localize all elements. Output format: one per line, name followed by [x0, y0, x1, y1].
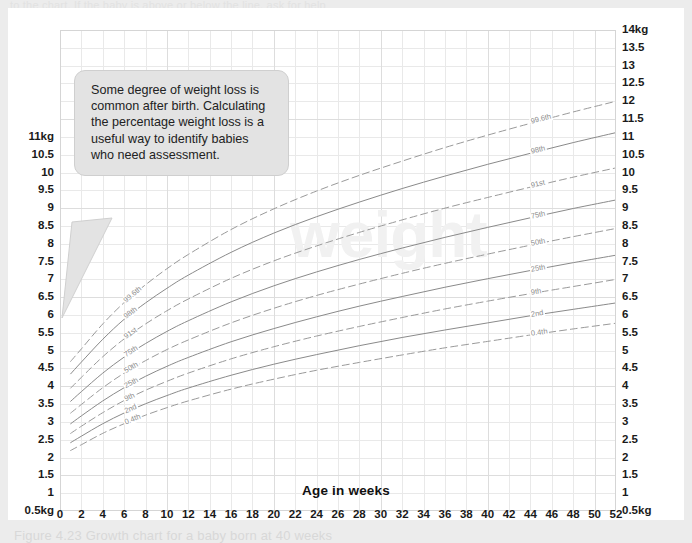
y-tick-left-tick: 4.5	[38, 362, 54, 373]
y-tick-left-tick: 6	[48, 309, 54, 320]
y-tick-right-tick: 2	[622, 452, 628, 463]
y-tick-right-tick: 8	[622, 238, 628, 249]
chart-card: 11kg10.5109.598.587.576.565.554.543.532.…	[8, 8, 684, 520]
y-tick-right-tick: 10.5	[622, 149, 644, 160]
y-tick-left-tick: 5	[48, 345, 54, 356]
y-tick-right-tick: 10	[622, 167, 635, 178]
callout-tail	[60, 160, 190, 320]
y-tick-left-tick: 8.5	[38, 220, 54, 231]
percentile-label-9th: 9th	[530, 287, 544, 297]
y-tick-right-tick: 13	[622, 60, 635, 71]
x-tick: 52	[603, 508, 629, 520]
y-tick-left-tick: 11kg	[28, 131, 54, 142]
y-tick-right-tick: 12.5	[622, 77, 644, 88]
y-tick-left-tick: 9	[48, 202, 54, 213]
y-tick-left-tick: 2	[48, 452, 54, 463]
y-tick-left-tick: 6.5	[38, 291, 54, 302]
y-tick-right-tick: 5	[622, 345, 628, 356]
y-axis-left: 11kg10.5109.598.587.576.565.554.543.532.…	[8, 8, 54, 520]
y-tick-right-tick: 11.5	[622, 113, 644, 124]
y-tick-left-tick: 3	[48, 416, 54, 427]
y-tick-right-tick: 6.5	[622, 291, 638, 302]
y-tick-left-tick: 3.5	[38, 398, 54, 409]
y-tick-right-tick: 12	[622, 95, 635, 106]
y-tick-right-tick: 11	[622, 131, 634, 142]
y-tick-left-tick: 5.5	[38, 327, 54, 338]
chart-page: to the chart. If the baby is above or be…	[0, 0, 692, 543]
figure-caption: Figure 4.23 Growth chart for a baby born…	[0, 527, 692, 543]
x-axis-title: Age in weeks	[8, 483, 684, 498]
y-tick-left-tick: 8	[48, 238, 54, 249]
y-tick-right-tick: 5.5	[622, 327, 638, 338]
y-tick-right-tick: 3	[622, 416, 628, 427]
y-tick-right-tick: 13.5	[622, 42, 644, 53]
y-tick-right-tick: 8.5	[622, 220, 638, 231]
callout-bubble: Some degree of weight loss is common aft…	[74, 70, 289, 176]
callout-text: Some degree of weight loss is common aft…	[91, 82, 274, 163]
y-axis-right: 14kg13.51312.51211.51110.5109.598.587.57…	[622, 8, 684, 520]
y-tick-right-tick: 6	[622, 309, 628, 320]
y-tick-right-tick: 7	[622, 273, 628, 284]
y-tick-right-tick: 7.5	[622, 256, 638, 267]
y-tick-left-tick: 10	[41, 167, 54, 178]
y-tick-right-tick: 2.5	[622, 434, 638, 445]
y-tick-left-tick: 2.5	[38, 434, 54, 445]
y-tick-right-tick: 4.5	[622, 362, 638, 373]
y-tick-right-tick: 1.5	[622, 469, 638, 480]
y-tick-right-tick: 4	[622, 380, 628, 391]
y-tick-left-tick: 7	[48, 273, 54, 284]
y-tick-left-tick: 1.5	[38, 469, 54, 480]
y-tick-left-tick: 4	[48, 380, 54, 391]
y-tick-left-tick: 7.5	[38, 256, 54, 267]
y-tick-right-tick: 9.5	[622, 184, 638, 195]
y-tick-left-tick: 9.5	[38, 184, 54, 195]
y-tick-right-tick: 3.5	[622, 398, 638, 409]
y-tick-left-tick: 10.5	[32, 149, 54, 160]
y-tick-right-tick: 14kg	[622, 24, 648, 35]
y-tick-right-tick: 9	[622, 202, 628, 213]
